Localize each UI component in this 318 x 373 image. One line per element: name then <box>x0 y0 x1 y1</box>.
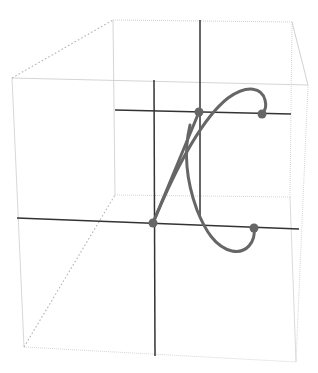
box-front-right-edge <box>296 85 308 362</box>
box-back-right-edge <box>290 22 292 197</box>
box-bottom-right-depth-edge <box>290 197 296 362</box>
box-front-bottom-edge <box>24 347 296 362</box>
upper-left-point <box>195 108 204 117</box>
curve-segment-lower-arc <box>187 125 255 251</box>
lower-right-point <box>250 224 259 233</box>
curve-points <box>149 108 267 233</box>
axes <box>17 20 299 356</box>
box-top-right-depth-edge <box>292 22 308 85</box>
bounding-box <box>12 20 308 362</box>
box-back-bottom-edge <box>115 195 290 197</box>
box-back-top-edge <box>113 20 292 22</box>
box-front-top-edge <box>12 78 308 85</box>
3d-curve-diagram <box>0 0 318 373</box>
box-front-left-edge <box>12 78 24 347</box>
box-top-left-depth-edge <box>12 20 113 78</box>
box-back-left-edge <box>113 20 115 195</box>
box-bottom-left-depth-edge <box>24 195 115 347</box>
curve-segment-upper-arc <box>153 89 266 223</box>
lower-left-point <box>149 219 158 228</box>
upper-right-point <box>258 110 267 119</box>
